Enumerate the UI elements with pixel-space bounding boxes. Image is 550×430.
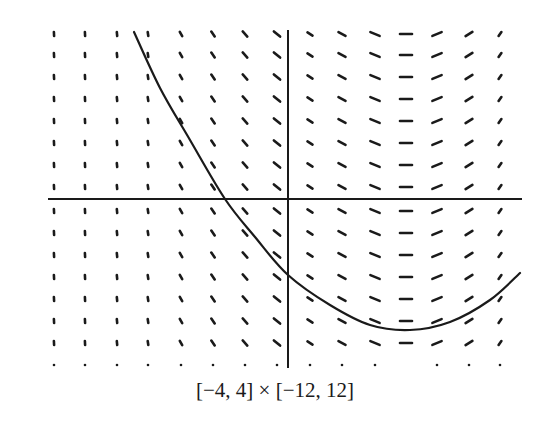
slope-mark [148, 185, 149, 189]
slope-mark [339, 53, 346, 57]
solution-curve [134, 32, 520, 330]
slope-mark [274, 318, 280, 323]
slope-mark [339, 32, 346, 36]
slope-mark [499, 185, 502, 189]
slope-mark [180, 275, 182, 279]
slope-mark [466, 141, 473, 145]
slope-mark [308, 185, 313, 188]
slope-mark [499, 341, 502, 345]
slope-mark [243, 96, 248, 101]
slope-mark [211, 231, 214, 236]
slope-mark [432, 185, 441, 189]
slope-mark [180, 163, 182, 167]
slope-mark [211, 119, 214, 124]
slope-mark [211, 253, 214, 258]
slope-mark [308, 163, 313, 166]
slope-mark [432, 253, 441, 257]
slope-mark [116, 364, 119, 367]
slope-mark [243, 230, 248, 235]
slope-mark [308, 75, 313, 78]
slope-mark [466, 185, 473, 189]
plot-window-caption: [−4, 4] × [−12, 12] [0, 378, 550, 403]
slope-mark [339, 297, 346, 301]
slope-mark [499, 364, 502, 367]
slope-mark [274, 96, 280, 101]
slope-mark [147, 364, 150, 367]
slope-mark [148, 163, 149, 167]
slope-mark [466, 75, 473, 79]
slope-mark [243, 118, 248, 123]
slope-mark [374, 364, 377, 367]
slope-mark [308, 275, 313, 278]
slope-mark [339, 319, 346, 323]
slope-mark [499, 209, 502, 213]
slope-mark [148, 53, 149, 57]
slope-mark [308, 253, 313, 256]
slope-mark [148, 141, 149, 145]
slope-mark [53, 364, 56, 367]
slope-mark [339, 141, 346, 145]
slope-mark [370, 185, 379, 189]
slope-mark [370, 319, 379, 323]
slope-mark [499, 141, 502, 145]
slope-mark [274, 52, 280, 57]
slope-mark [339, 253, 346, 257]
slope-mark [180, 185, 182, 189]
slope-mark [211, 185, 214, 190]
slope-mark [308, 341, 313, 344]
slope-mark [308, 53, 313, 56]
slope-mark [148, 209, 149, 213]
slope-mark [211, 97, 214, 102]
slope-mark [243, 208, 248, 213]
slope-mark [339, 185, 346, 189]
slope-mark [243, 274, 248, 279]
slope-mark [180, 319, 182, 323]
slope-mark [499, 75, 502, 79]
slope-mark [432, 341, 441, 345]
slope-mark [148, 32, 149, 36]
slope-mark [466, 209, 473, 213]
slope-mark [370, 32, 379, 36]
slope-mark [432, 209, 441, 213]
slope-mark [180, 75, 182, 79]
slope-mark [274, 208, 280, 213]
slope-mark [466, 163, 473, 167]
slope-mark [436, 364, 439, 367]
slope-mark [466, 253, 473, 257]
slope-mark [243, 31, 248, 36]
slope-mark [243, 318, 248, 323]
slope-mark [432, 141, 441, 145]
slope-mark [243, 340, 248, 345]
slope-mark [370, 209, 379, 213]
slope-mark [499, 53, 502, 57]
slope-mark [211, 53, 214, 58]
slope-mark [499, 253, 502, 257]
slope-mark [274, 296, 280, 301]
slope-mark [339, 75, 346, 79]
slope-mark [243, 52, 248, 57]
slope-mark [339, 119, 346, 123]
slope-mark [211, 297, 214, 302]
slope-mark [370, 53, 379, 57]
slope-mark [148, 297, 149, 301]
slope-mark [84, 364, 87, 367]
slope-mark [148, 319, 149, 323]
slope-mark [243, 184, 248, 189]
slope-mark [243, 74, 248, 79]
slope-mark [148, 231, 149, 235]
slope-mark [148, 97, 149, 101]
slope-mark [339, 163, 346, 167]
slope-mark [274, 340, 280, 345]
slope-mark [274, 140, 280, 145]
slope-mark [499, 32, 502, 36]
slope-mark [211, 75, 214, 80]
slope-mark [339, 341, 346, 345]
slope-mark [466, 119, 473, 123]
slope-mark [180, 97, 182, 101]
slope-mark [148, 275, 149, 279]
slope-mark [466, 97, 473, 101]
slope-mark [274, 274, 280, 279]
slope-mark [148, 119, 149, 123]
slope-mark [499, 97, 502, 101]
slope-mark [499, 297, 502, 301]
